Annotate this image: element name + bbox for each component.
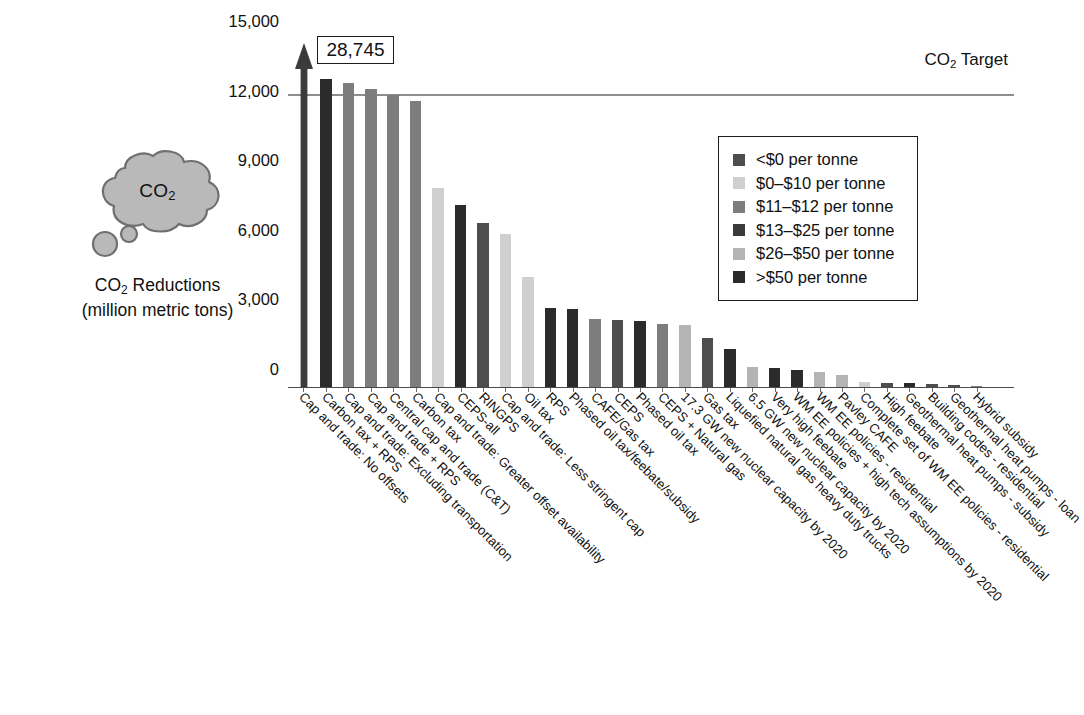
- bar: [702, 338, 714, 388]
- co2-cloud-graphic: CO2: [60, 150, 255, 270]
- legend-swatch: [733, 201, 745, 213]
- x-axis-line: [288, 387, 1014, 389]
- bar: [589, 319, 601, 388]
- bar: [679, 325, 691, 388]
- y-axis-tick-label: 9,000: [238, 151, 279, 170]
- y-axis-tick-label: 3,000: [238, 290, 279, 309]
- bar: [769, 368, 781, 388]
- chart-side-annotation: CO2 CO2 Reductions (million metric tons): [60, 150, 255, 322]
- legend-label: <$0 per tonne: [756, 150, 858, 169]
- y-axis-tick-label: 0: [270, 360, 279, 379]
- y-axis-caption: CO2 Reductions (million metric tons): [60, 274, 255, 322]
- bar: [410, 101, 422, 388]
- legend-swatch: [733, 177, 745, 189]
- legend-label: $13–$25 per tonne: [756, 221, 895, 240]
- bar: [432, 188, 444, 388]
- bar: [612, 320, 624, 388]
- bar: [747, 367, 759, 388]
- y-axis-tick-label: 12,000: [229, 81, 279, 100]
- bar: [657, 324, 669, 388]
- bar: [522, 277, 534, 388]
- y-axis-caption-line1: CO2 Reductions: [95, 275, 220, 295]
- up-arrow-icon: [295, 43, 313, 388]
- y-axis-tick-label: 15,000: [229, 12, 279, 31]
- legend-swatch: [733, 271, 745, 283]
- x-axis-labels: Cap and trade: No offsetsCarbon tax + RP…: [288, 390, 1024, 710]
- legend-label: >$50 per tonne: [756, 268, 867, 287]
- bar: [387, 95, 399, 388]
- chart-legend: <$0 per tonne$0–$10 per tonne$11–$12 per…: [718, 136, 918, 301]
- legend-swatch: [733, 248, 745, 260]
- legend-item: $26–$50 per tonne: [733, 242, 895, 266]
- cloud-label: CO2: [60, 180, 255, 203]
- bar: [724, 349, 736, 388]
- legend-label: $0–$10 per tonne: [756, 174, 885, 193]
- value-callout-badge: 28,745: [317, 36, 393, 64]
- bar: [455, 205, 467, 388]
- cloud-label-sub: 2: [168, 188, 175, 203]
- cloud-label-text: CO: [139, 180, 168, 201]
- bar: [545, 308, 557, 388]
- bar: [500, 234, 512, 388]
- bar: [634, 321, 646, 388]
- bar: [477, 223, 489, 388]
- y-axis-tick-label: 6,000: [238, 220, 279, 239]
- legend-label: $11–$12 per tonne: [756, 197, 893, 216]
- legend-swatch: [733, 154, 745, 166]
- legend-label: $26–$50 per tonne: [756, 244, 895, 263]
- bar: [365, 89, 377, 388]
- y-axis-caption-line2: (million metric tons): [60, 299, 255, 322]
- legend-item: $11–$12 per tonne: [733, 195, 895, 219]
- legend-item: $0–$10 per tonne: [733, 172, 895, 196]
- bar: [567, 309, 579, 388]
- legend-swatch: [733, 224, 745, 236]
- legend-item: >$50 per tonne: [733, 266, 895, 290]
- bar: [320, 79, 332, 388]
- cloud-icon: [83, 150, 233, 262]
- legend-item: <$0 per tonne: [733, 148, 895, 172]
- bar: [343, 83, 355, 388]
- bar: [791, 370, 803, 388]
- legend-item: $13–$25 per tonne: [733, 219, 895, 243]
